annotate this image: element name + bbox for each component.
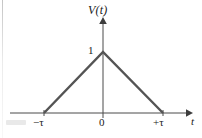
figure-canvas: V(t) t 1 0 −τ +τ	[0, 0, 202, 138]
x-tick-label-pos-tau: +τ	[153, 117, 164, 128]
x-tick-label-neg-tau: −τ	[33, 117, 44, 128]
x-axis-label: t	[191, 116, 194, 127]
y-axis-arrowhead	[99, 17, 107, 24]
origin-label: 0	[99, 117, 105, 128]
y-axis-label: V(t)	[88, 4, 107, 16]
y-tick-label-one: 1	[88, 45, 94, 56]
